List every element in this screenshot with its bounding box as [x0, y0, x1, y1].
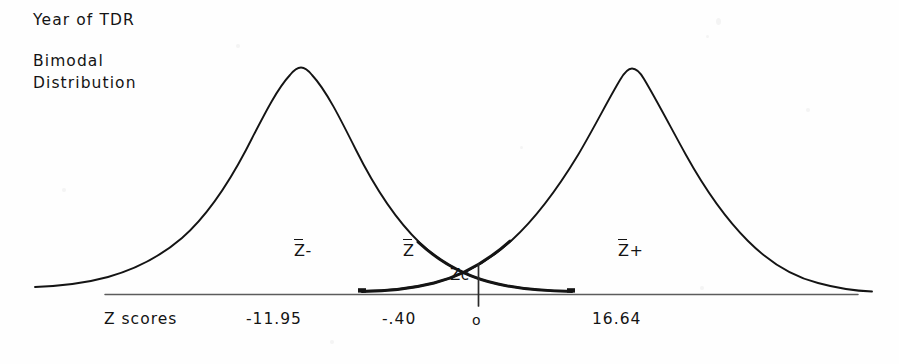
axis-tick-label: o: [472, 312, 482, 328]
z-bar-minus-letter: Z: [294, 240, 305, 260]
left-curve-lower-tail: [418, 242, 572, 291]
annotation-z-bar-plus: Z+: [618, 240, 643, 260]
z-bar-plus-letter: Z: [618, 240, 629, 260]
z-bar-plus-sign: +: [629, 241, 643, 260]
right-tail-terminator: [358, 288, 366, 292]
zc-text: Zc: [450, 266, 470, 284]
axis-tick-label: -11.95: [246, 310, 302, 328]
z-bar-letter: Z: [403, 240, 414, 260]
figure-bimodal-distribution: Year of TDR Bimodal Distribution Z- Z Zc…: [0, 0, 899, 364]
z-bar-overbar: Z: [403, 240, 414, 260]
left-tail-terminator: [567, 288, 575, 292]
annotation-z-bar: Z: [403, 240, 414, 260]
axis-tick-label: 16.64: [592, 310, 641, 328]
axis-tick-label: -.40: [382, 310, 416, 328]
annotation-z-bar-minus: Z-: [294, 240, 312, 260]
annotation-zc: Zc: [450, 266, 470, 284]
right-curve-lower-tail: [362, 241, 510, 291]
axis-caption: Z scores: [104, 310, 177, 328]
figure-title: Year of TDR: [33, 11, 135, 29]
z-bar-minus-overbar: Z: [294, 240, 305, 260]
z-bar-plus-overbar: Z: [618, 240, 629, 260]
z-bar-minus-sign: -: [305, 241, 311, 260]
figure-subtitle-line-1: Bimodal: [33, 50, 137, 72]
figure-subtitle-line-2: Distribution: [33, 72, 137, 94]
figure-subtitle: Bimodal Distribution: [33, 50, 137, 94]
